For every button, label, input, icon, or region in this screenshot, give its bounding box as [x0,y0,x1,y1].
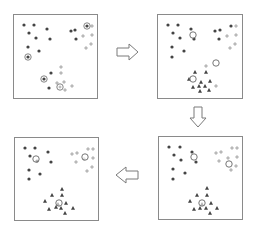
centroid-marker-icon [81,153,89,161]
data-point-dark-icon [215,35,223,43]
seed-point-icon [40,75,48,83]
data-point-plus-icon [88,22,96,30]
data-point-plus-icon [215,157,223,165]
data-point-triangle-icon [196,87,204,95]
data-point-plus-icon [82,44,90,52]
data-point-dark-icon [180,47,188,55]
panel-step-2 [157,14,243,99]
data-point-triangle-icon [58,191,66,199]
data-point-plus-icon [53,79,61,87]
data-point-dark-icon [45,84,53,92]
data-point-dark-icon [47,158,55,166]
data-point-plus-icon [89,154,97,162]
data-point-plus-icon [233,144,241,152]
centroid-marker-icon [198,199,206,207]
data-point-plus-icon [61,86,69,94]
data-point-dark-icon [47,69,55,77]
data-point-triangle-icon [205,86,213,94]
centroid-marker-icon [212,59,220,67]
centroid-marker-icon [55,199,63,207]
data-point-dark-icon [176,143,184,151]
panel-step-1 [13,14,98,99]
data-point-dark-icon [176,34,184,42]
data-point-plus-icon [88,31,96,39]
data-point-triangle-icon [48,191,56,199]
data-point-plus-icon [232,22,240,30]
data-point-dark-icon [169,175,177,183]
data-point-triangle-icon [193,191,201,199]
data-point-plus-icon [89,145,97,153]
data-point-dark-icon [20,21,28,29]
data-point-plus-icon [60,78,68,86]
data-point-dark-icon [32,34,40,42]
data-point-plus-icon [223,32,231,40]
seed-point-icon [24,53,32,61]
data-point-dark-icon [36,170,44,178]
centroid-marker-icon [32,155,40,163]
data-point-plus-icon [232,31,240,39]
centroid-marker-icon [189,31,197,39]
data-point-dark-icon [35,47,43,55]
data-point-plus-icon [79,32,87,40]
data-point-dark-icon [71,26,79,34]
data-point-dark-icon [164,21,172,29]
data-point-dark-icon [181,169,189,177]
data-point-dark-icon [165,143,173,151]
data-point-dark-icon [44,148,52,156]
data-point-plus-icon [68,82,76,90]
data-point-triangle-icon [69,204,77,212]
centroid-marker-icon [189,75,197,83]
data-point-dark-icon [25,166,33,174]
data-point-dark-icon [174,21,182,29]
panel-step-3 [158,136,243,220]
arrow-down-icon [189,106,207,128]
data-point-dark-icon [46,35,54,43]
data-point-triangle-icon [186,197,194,205]
centroid-marker-icon [190,153,198,161]
data-point-dark-icon [43,25,51,33]
data-point-dark-icon [30,21,38,29]
data-point-triangle-icon [202,68,210,76]
data-point-triangle-icon [203,191,211,199]
data-point-triangle-icon [41,197,49,205]
data-point-plus-icon [72,158,80,166]
data-point-dark-icon [31,144,39,152]
data-point-dark-icon [168,43,176,51]
arrow-left-icon [115,166,139,184]
centroid-marker-icon [225,160,233,168]
data-point-plus-icon [233,153,241,161]
data-point-plus-icon [57,69,65,77]
data-point-dark-icon [25,175,33,183]
data-point-dark-icon [168,53,176,61]
data-point-plus-icon [83,167,91,175]
data-point-triangle-icon [61,209,69,217]
data-point-triangle-icon [213,204,221,212]
panel-step-4 [14,137,99,221]
data-point-dark-icon [169,165,177,173]
data-point-dark-icon [177,156,185,164]
data-point-dark-icon [21,144,29,152]
arrow-right-icon [116,43,139,61]
data-point-dark-icon [24,43,32,51]
data-point-plus-icon [226,44,234,52]
